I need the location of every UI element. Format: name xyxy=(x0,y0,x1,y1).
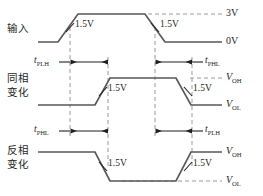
waveform-input xyxy=(38,14,222,42)
row-label-inverting-line2: 变化 xyxy=(7,159,28,170)
timing-label-tphl-2: tPHL xyxy=(34,124,49,136)
tplh-1-sub: PLH xyxy=(37,60,49,67)
voltage-label-voh-row3: VOH xyxy=(226,146,241,158)
threshold-tick-inv-fall xyxy=(99,162,107,171)
voltage-label-0v: 0V xyxy=(226,36,238,47)
row-label-input: 输入 xyxy=(7,23,28,34)
measure-tplh-2 xyxy=(156,128,204,133)
measure-tphl-1 xyxy=(156,59,204,64)
threshold-label-noninv-rise: 1.5V xyxy=(108,83,127,93)
voltage-label-voh-row2: VOH xyxy=(226,72,241,84)
row-label-inverting-line1: 反相 xyxy=(7,145,28,156)
timing-label-tplh-1: tPLH xyxy=(34,55,49,67)
threshold-label-noninv-fall: 1.5V xyxy=(193,83,212,93)
threshold-label-input-rise: 1.5V xyxy=(75,19,94,29)
voltage-label-vol-row2: VOL xyxy=(226,99,241,111)
row-label-noninverting-line1: 同相 xyxy=(7,73,28,84)
threshold-tick-noninv-rise xyxy=(99,87,107,96)
row-label-noninverting-line2: 变化 xyxy=(7,87,28,98)
vol-sub-row2: OL xyxy=(232,104,241,111)
timing-label-tplh-2: tPLH xyxy=(205,124,220,136)
tphl-2-sub: PHL xyxy=(37,129,49,136)
measure-tplh-1 xyxy=(59,59,108,64)
tplh-2-sub: PLH xyxy=(208,129,220,136)
measure-tphl-2 xyxy=(59,128,108,133)
voltage-label-vol-row3: VOL xyxy=(226,175,241,187)
guide-lines xyxy=(70,27,192,168)
voh-sub-row3: OH xyxy=(232,151,241,158)
threshold-label-input-fall: 1.5V xyxy=(160,19,179,29)
threshold-label-inv-fall: 1.5V xyxy=(108,158,127,168)
timing-label-tphl-1: tPHL xyxy=(205,55,220,67)
voh-sub-row2: OH xyxy=(232,77,241,84)
voltage-label-3v: 3V xyxy=(226,8,238,19)
level-lines xyxy=(122,14,222,181)
waveform-canvas xyxy=(0,0,263,196)
timing-diagram: 输入 同相 变化 反相 变化 3V 0V VOH VOL VOH VOL 1.5… xyxy=(0,0,263,196)
tphl-1-sub: PHL xyxy=(208,60,220,67)
vol-sub-row3: OL xyxy=(232,180,241,187)
threshold-label-inv-rise: 1.5V xyxy=(193,158,212,168)
